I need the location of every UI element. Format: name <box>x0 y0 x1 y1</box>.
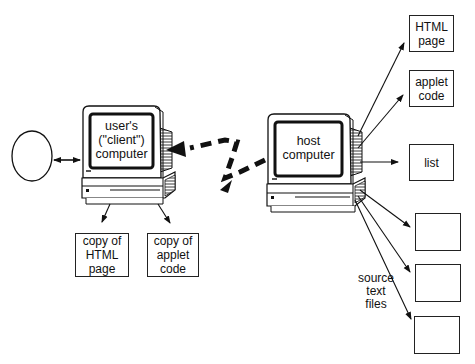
user-node <box>12 131 52 181</box>
box-line: HTML <box>415 20 448 34</box>
box-line: copy of <box>83 234 122 248</box>
copy-of-applet-code-box: copy of applet code <box>147 233 199 277</box>
box-line: page <box>415 34 448 48</box>
box-line: page <box>83 262 122 276</box>
client-to-html-copy-arrow <box>102 204 110 222</box>
source-text-files-label: source text files <box>354 272 398 311</box>
client-label-line: user's <box>90 119 153 133</box>
client-to-applet-copy-arrow <box>158 204 170 223</box>
client-computer-label: user's ("client") computer <box>90 119 153 161</box>
html-page-box: HTML page <box>409 15 454 52</box>
source-file-box-1 <box>415 213 461 251</box>
client-label-line: computer <box>90 147 153 161</box>
applet-code-box: applet code <box>409 70 454 107</box>
box-line: copy of <box>154 234 193 248</box>
host-label-line: host <box>275 134 342 148</box>
box-line: list <box>424 156 439 170</box>
host-label-line: computer <box>275 148 342 162</box>
diagram-canvas <box>0 0 475 364</box>
source-file-box-3 <box>414 316 460 354</box>
box-line: code <box>154 262 193 276</box>
client-label-line: ("client") <box>90 133 153 147</box>
copy-of-html-page-box: copy of HTML page <box>75 233 129 277</box>
box-line: HTML <box>83 248 122 262</box>
box-line: code <box>415 89 448 103</box>
source-file-box-2 <box>415 264 461 302</box>
box-line: applet <box>154 248 193 262</box>
list-box: list <box>409 144 454 181</box>
host-computer <box>267 114 365 212</box>
host-computer-label: host computer <box>275 134 342 162</box>
source-label-line: files <box>354 298 398 311</box>
network-transfer-path <box>166 140 265 193</box>
box-line: applet <box>415 75 448 89</box>
